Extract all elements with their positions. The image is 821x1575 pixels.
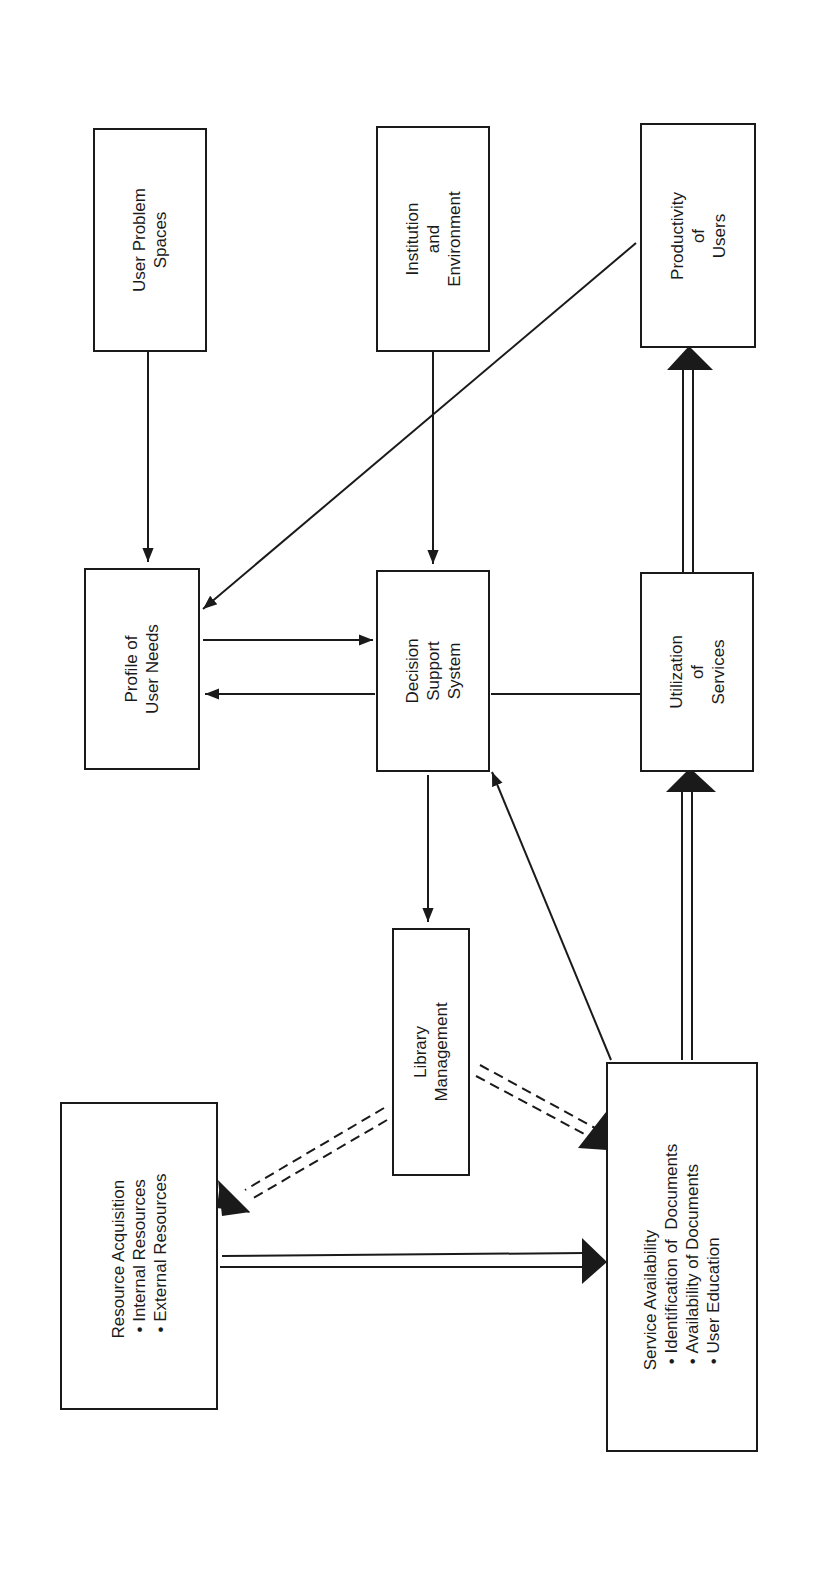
node-library-management: Library Management [392,928,470,1176]
arrowhead-to-resource [217,1180,250,1216]
node-decision-support-system: Decision Support System [376,570,490,772]
bullet-internal-resources: Internal Resources [129,1173,150,1338]
node-resource-acquisition: Resource Acquisition Internal Resources … [60,1102,218,1410]
node-user-problem-spaces: User Problem Spaces [93,128,207,352]
node-service-availability: Service Availability Identification of D… [606,1062,758,1452]
node-utilization-of-services: Utilization of Services [640,572,754,772]
arrowhead-to-service [582,1238,607,1284]
bullet-external-resources: External Resources [150,1173,171,1338]
node-profile-of-user-needs: Profile of User Needs [84,568,200,770]
node-productivity-of-users: Productivity of Users [640,123,756,348]
bullet-availability: Availability of Documents [682,1144,703,1370]
edge-service-to-dss [492,772,611,1060]
arrowhead-to-productivity [667,346,713,370]
bullet-user-education: User Education [703,1144,724,1370]
arrowhead-to-service-dashed [578,1112,607,1150]
node-institution-environment: Institution and Environment [376,126,490,352]
bullet-identification: Identification of Documents [661,1144,682,1370]
